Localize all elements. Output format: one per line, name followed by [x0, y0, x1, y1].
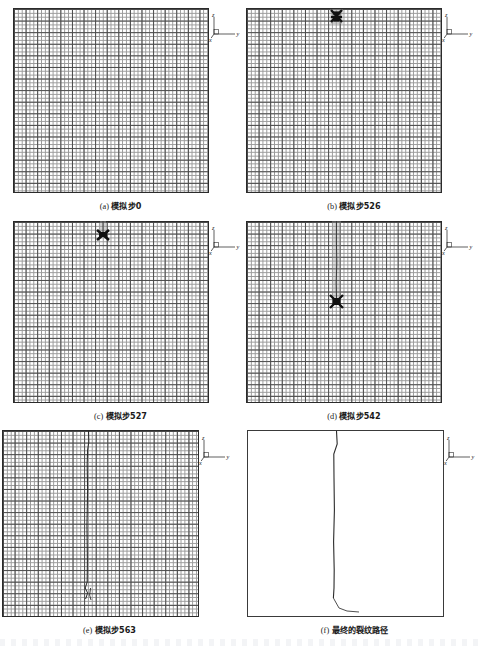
axis-label-z: z: [444, 11, 448, 18]
axis-label-x: x: [208, 36, 212, 43]
panel-f-caption-text: 最终的裂纹路径: [332, 625, 389, 635]
axis-label-z: z: [211, 224, 215, 231]
crack-branch-a: [85, 582, 87, 599]
panel-d-plot: [246, 221, 442, 403]
axis-label-z: z: [201, 434, 205, 441]
axis-label-y: y: [226, 453, 230, 460]
panel-b-plot: [246, 8, 442, 193]
axis-label-z: z: [446, 434, 450, 441]
crack-branch-b: [90, 588, 91, 600]
panel-c: z y x (c) 模拟步527: [13, 221, 228, 429]
panel-b-features: [246, 8, 442, 193]
axis-label-x: x: [443, 459, 447, 466]
panel-d-features: [246, 221, 442, 403]
panel-c-caption: (c) 模拟步527: [13, 410, 228, 421]
panel-f-caption: (f) 最终的裂纹路径: [247, 624, 462, 635]
panel-a-caption: (a) 模拟步0: [13, 200, 228, 211]
panel-a: z y x (a) 模拟步0: [13, 8, 228, 220]
panel-f-axes: z y x: [444, 437, 478, 467]
panel-f-features: [247, 430, 444, 617]
panel-d: z y x (d) 模拟步542: [246, 221, 462, 429]
panel-f-caption-prefix: (f): [321, 626, 330, 635]
panel-c-plot: [13, 221, 209, 403]
panel-d-caption-prefix: (d): [327, 412, 337, 421]
damage-spot-icon: [331, 9, 343, 24]
panel-c-axes: z y x: [209, 227, 243, 257]
axis-label-y: y: [471, 453, 475, 460]
crack-path: [333, 431, 337, 598]
axis-label-x: x: [441, 249, 445, 256]
crack-path: [87, 430, 89, 582]
axis-label-y: y: [469, 30, 473, 37]
axis-label-y: y: [236, 30, 240, 37]
panel-c-features: [13, 221, 209, 403]
panel-d-axes: z y x: [442, 227, 476, 257]
panel-e-axes: z y x: [199, 437, 233, 467]
panel-b: z y x (b) 模拟步526: [246, 8, 462, 220]
panel-e-features: [2, 430, 199, 617]
axis-label-y: y: [236, 243, 240, 250]
panel-e-caption-text: 模拟步563: [95, 625, 137, 635]
axis-label-y: y: [469, 243, 473, 250]
panel-b-axes: z y x: [442, 14, 476, 44]
axis-label-x: x: [441, 36, 445, 43]
panel-c-caption-text: 模拟步527: [106, 411, 148, 421]
crack-path-hook: [333, 598, 359, 612]
panel-f-plot: [247, 430, 444, 617]
panel-a-plot: [13, 8, 209, 193]
crack-path: [336, 221, 337, 301]
panel-b-caption-text: 模拟步526: [339, 201, 381, 211]
panel-d-caption: (d) 模拟步542: [246, 410, 462, 421]
panel-e-caption: (e) 模拟步563: [2, 624, 217, 635]
panel-e: z y x (e) 模拟步563: [2, 430, 217, 640]
panel-c-caption-prefix: (c): [94, 412, 104, 421]
panel-a-caption-text: 模拟步0: [111, 201, 141, 211]
axis-label-x: x: [208, 249, 212, 256]
panel-f: z y x (f) 最终的裂纹路径: [247, 430, 462, 640]
panel-d-caption-text: 模拟步542: [339, 411, 381, 421]
panel-b-caption-prefix: (b): [327, 202, 337, 211]
axis-label-z: z: [444, 224, 448, 231]
panel-b-caption: (b) 模拟步526: [246, 200, 462, 211]
page-bleed-artifact: [0, 639, 482, 646]
panel-a-axes: z y x: [209, 14, 243, 44]
panel-a-caption-prefix: (a): [100, 202, 110, 211]
panel-e-plot: [2, 430, 199, 617]
axis-label-z: z: [211, 11, 215, 18]
axis-label-x: x: [198, 459, 202, 466]
panel-e-caption-prefix: (e): [83, 626, 93, 635]
panel-a-mesh: [13, 8, 209, 193]
